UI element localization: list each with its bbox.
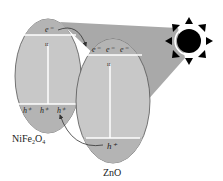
nife2o4-vb-hole: h⁺ xyxy=(23,106,32,115)
nife2o4-cb-electron: e⁻ xyxy=(45,25,54,34)
zno-cb-electron: e⁻ xyxy=(120,45,129,54)
zno-cb-electron: e⁻ xyxy=(106,45,115,54)
zno-label: ZnO xyxy=(103,167,121,178)
nife2o4-vb-hole: h⁺ xyxy=(40,106,49,115)
zno-vb-hole: h⁺ xyxy=(107,141,118,151)
svg-text:ıı: ıı xyxy=(107,61,111,67)
zno-cb-electron: e⁻ xyxy=(92,45,101,54)
nife2o4-label: NiFe2O4 xyxy=(12,133,45,145)
svg-text:ıı: ıı xyxy=(45,41,49,47)
heterojunction-diagram: ıı e⁻ h⁺ h⁺ h⁺ ıı e⁻ e⁻ e⁻ h⁺ NiFe2O4 Zn… xyxy=(0,0,223,181)
nife2o4-vb-hole: h⁺ xyxy=(57,106,66,115)
